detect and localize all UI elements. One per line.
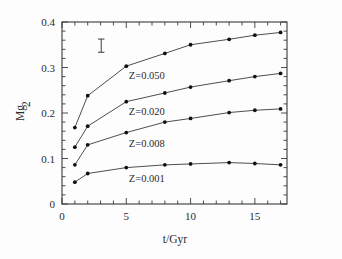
data-series-group	[73, 31, 283, 184]
data-point	[279, 31, 283, 35]
data-point	[73, 145, 77, 149]
data-point	[227, 37, 231, 41]
data-point	[253, 108, 257, 112]
data-point	[163, 163, 167, 167]
x-axis-label: t/Gyr	[163, 233, 187, 246]
x-tick-label: 15	[249, 210, 261, 222]
y-axis-label-subscript: 2	[20, 101, 32, 107]
data-point	[253, 75, 257, 79]
data-point	[189, 85, 193, 89]
y-axis-label: Mg 2	[14, 101, 32, 121]
y-axis-ticks	[62, 22, 287, 204]
y-tick-label: 0.2	[41, 107, 55, 119]
data-point	[86, 143, 90, 147]
x-axis-tick-labels: 051015	[59, 210, 261, 222]
series-label: Z=0.008	[129, 138, 165, 149]
data-point	[86, 94, 90, 98]
data-point	[124, 64, 128, 68]
data-point	[124, 100, 128, 104]
data-point	[227, 161, 231, 165]
data-point	[189, 43, 193, 47]
x-axis-ticks	[62, 22, 281, 204]
series-z-0-001	[73, 161, 283, 184]
data-point	[163, 120, 167, 124]
y-tick-label: 0	[50, 198, 56, 210]
x-tick-label: 10	[185, 210, 197, 222]
data-point	[189, 162, 193, 166]
series-label: Z=0.020	[129, 106, 165, 117]
data-point	[227, 111, 231, 115]
series-label: Z=0.050	[129, 70, 165, 81]
data-point	[279, 72, 283, 76]
data-point	[124, 131, 128, 135]
data-point	[86, 172, 90, 176]
plot-frame	[62, 22, 287, 204]
data-point	[279, 163, 283, 167]
data-point	[73, 126, 77, 130]
chart-plot: 051015 00.10.20.30.4 Z=0.050Z=0.020Z=0.0…	[0, 0, 342, 259]
data-point	[73, 180, 77, 184]
data-point	[163, 51, 167, 55]
data-point	[73, 163, 77, 167]
series-label: Z=0.001	[129, 173, 165, 184]
data-point	[253, 162, 257, 166]
data-point	[124, 166, 128, 170]
x-tick-label: 5	[124, 210, 130, 222]
y-tick-label: 0.3	[41, 62, 55, 74]
series-z-0-050	[73, 31, 283, 130]
figure-container: 051015 00.10.20.30.4 Z=0.050Z=0.020Z=0.0…	[0, 0, 342, 259]
data-point	[86, 124, 90, 128]
y-tick-label: 0.4	[41, 16, 55, 28]
data-point	[279, 107, 283, 111]
error-bar-marker	[98, 39, 104, 52]
y-tick-label: 0.1	[41, 153, 55, 165]
data-point	[189, 117, 193, 121]
y-axis-tick-labels: 00.10.20.30.4	[41, 16, 55, 210]
data-point	[253, 33, 257, 37]
x-tick-label: 0	[59, 210, 65, 222]
data-point	[227, 79, 231, 83]
data-point	[163, 91, 167, 95]
